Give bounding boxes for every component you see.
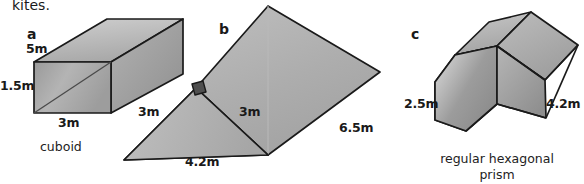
- dimension-b-slant-left: 3m: [138, 105, 159, 119]
- figure-tag-c: c: [411, 27, 419, 43]
- caption-hex-line2: prism: [412, 168, 582, 182]
- figure-tag-b: b: [219, 22, 229, 38]
- right-angle-marker-icon: [192, 81, 206, 95]
- dimension-b-length: 6.5m: [339, 121, 373, 135]
- dimension-c-side: 2.5m: [404, 97, 438, 111]
- hex-front-left-face: [435, 46, 497, 131]
- lead-text: kites.: [12, 0, 50, 14]
- dimension-a-height: 1.5m: [0, 79, 34, 93]
- dimension-c-length: 4.2m: [546, 97, 580, 111]
- caption-hex-line1: regular hexagonal: [412, 152, 582, 166]
- cuboid-shape: [34, 19, 183, 113]
- caption-cuboid: cuboid: [40, 140, 82, 154]
- dimension-b-base: 4.2m: [185, 155, 219, 169]
- dimension-b-slant-right: 3m: [239, 105, 260, 119]
- dimension-a-width: 3m: [58, 116, 79, 130]
- dimension-a-depth: 5m: [26, 42, 47, 56]
- hexagonal-prism-shape: [435, 12, 578, 131]
- figure-panel: kites. a 5m 1.5m 3m cuboid b 3m 3m 4.2m …: [0, 0, 584, 184]
